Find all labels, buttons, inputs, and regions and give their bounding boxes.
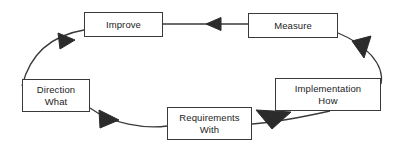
edge-improve-to-direction-line [22, 30, 84, 86]
arrowhead-direction-to-requirements [99, 110, 119, 128]
node-implementation[interactable]: Implementation How [275, 78, 381, 111]
arrowhead-implementation-to-measure [352, 36, 371, 58]
node-implementation-line2: How [318, 95, 337, 107]
node-direction[interactable]: Direction What [22, 79, 90, 112]
node-direction-line1: Direction [37, 84, 75, 96]
cycle-diagram: Improve Measure Implementation How Requi… [0, 0, 404, 149]
node-improve-line1: Improve [106, 19, 141, 31]
node-requirements-line2: With [200, 124, 219, 136]
arrowhead-improve-to-direction [58, 33, 75, 49]
node-requirements[interactable]: Requirements With [167, 107, 252, 140]
node-direction-line2: What [45, 96, 68, 108]
node-requirements-line1: Requirements [179, 112, 239, 124]
arrowhead-measure-to-improve [206, 18, 221, 31]
node-improve[interactable]: Improve [84, 12, 163, 37]
node-measure[interactable]: Measure [248, 13, 338, 38]
node-measure-line1: Measure [274, 20, 312, 32]
node-implementation-line1: Implementation [295, 83, 361, 95]
